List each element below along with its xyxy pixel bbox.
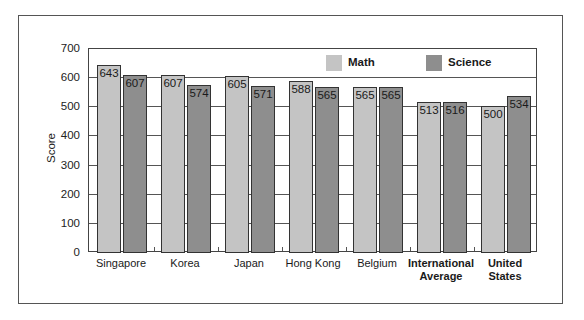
bar-value-label: 565 — [380, 89, 402, 101]
bar-math-hong-kong: 588 — [289, 81, 313, 253]
bar-math-singapore: 643 — [97, 65, 121, 253]
y-tick-label: 400 — [40, 129, 80, 141]
x-tick — [346, 247, 347, 251]
y-tick-label: 700 — [40, 42, 80, 54]
bar-math-united-states: 500 — [481, 106, 505, 253]
bar-science-korea: 574 — [187, 85, 211, 253]
legend-swatch-science — [426, 55, 442, 71]
bar-value-label: 565 — [316, 89, 338, 101]
bar-science-singapore: 607 — [123, 75, 147, 253]
x-tick — [218, 247, 219, 251]
bar-science-international-average: 516 — [443, 102, 467, 253]
legend-label-science: Science — [448, 56, 491, 68]
y-tick-label: 300 — [40, 159, 80, 171]
bar-science-hong-kong: 565 — [315, 87, 339, 253]
x-tick — [154, 247, 155, 251]
bar-value-label: 534 — [508, 98, 530, 110]
x-tick — [282, 247, 283, 251]
x-label-united-states: UnitedStates — [465, 257, 545, 283]
bar-math-korea: 607 — [161, 75, 185, 253]
y-tick-label: 100 — [40, 217, 80, 229]
x-tick — [410, 247, 411, 251]
bar-value-label: 513 — [418, 104, 440, 116]
bar-value-label: 605 — [226, 78, 248, 90]
bar-science-japan: 571 — [251, 86, 275, 253]
bar-math-belgium: 565 — [353, 87, 377, 253]
bar-value-label: 588 — [290, 83, 312, 95]
legend-label-math: Math — [348, 56, 375, 68]
legend: Math Science — [89, 49, 536, 78]
y-tick-label: 500 — [40, 100, 80, 112]
bar-value-label: 571 — [252, 88, 274, 100]
bar-math-international-average: 513 — [417, 102, 441, 253]
bar-value-label: 500 — [482, 108, 504, 120]
y-tick-label: 200 — [40, 188, 80, 200]
y-tick-label: 600 — [40, 71, 80, 83]
bar-value-label: 565 — [354, 89, 376, 101]
y-tick-label: 0 — [40, 246, 80, 258]
x-tick — [474, 247, 475, 251]
bar-value-label: 574 — [188, 87, 210, 99]
legend-swatch-math — [326, 55, 342, 71]
bar-value-label: 516 — [444, 104, 466, 116]
bar-math-japan: 605 — [225, 76, 249, 253]
bar-science-united-states: 534 — [507, 96, 531, 253]
plot-area: Math Science 643607607574605571588565565… — [88, 48, 537, 252]
bar-value-label: 643 — [98, 67, 120, 79]
bar-value-label: 607 — [162, 77, 184, 89]
bar-science-belgium: 565 — [379, 87, 403, 253]
bar-value-label: 607 — [124, 77, 146, 89]
